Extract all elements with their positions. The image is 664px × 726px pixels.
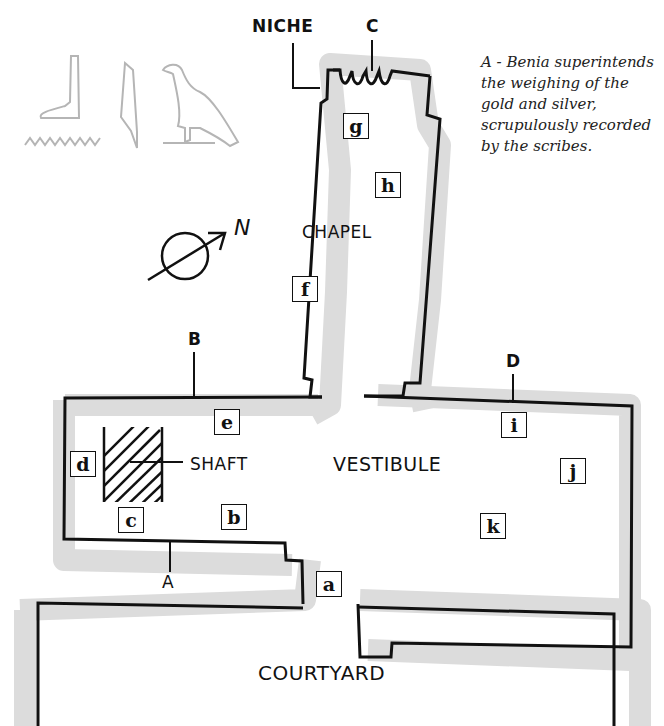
reed-hieroglyph bbox=[121, 63, 137, 148]
caption-line: by the scribes. bbox=[481, 136, 661, 157]
callout-c: C bbox=[366, 16, 378, 36]
marker-j: j bbox=[560, 458, 586, 484]
marker-a: a bbox=[316, 571, 342, 597]
zigzag-hieroglyph bbox=[25, 138, 100, 145]
niche-leader bbox=[293, 43, 320, 88]
caption-line: gold and silver, bbox=[481, 94, 661, 115]
north-arrow-icon bbox=[148, 233, 225, 280]
vestibule-label: VESTIBULE bbox=[333, 453, 441, 475]
caption-line: the weighing of the bbox=[481, 73, 661, 94]
chapel-label: CHAPEL bbox=[302, 222, 372, 242]
foot-hieroglyph bbox=[41, 56, 79, 118]
callout-b: B bbox=[188, 329, 201, 349]
caption-line: A - Benia superintends bbox=[481, 52, 661, 73]
caption: A - Benia superintends the weighing of t… bbox=[481, 52, 661, 157]
callout-a: A bbox=[162, 572, 174, 592]
marker-e: e bbox=[214, 409, 240, 435]
marker-k: k bbox=[480, 513, 506, 539]
vulture-hieroglyph bbox=[163, 65, 238, 146]
marker-c: c bbox=[118, 507, 144, 533]
marker-g: g bbox=[343, 113, 369, 139]
marker-i: i bbox=[501, 412, 527, 438]
shaft-hatch bbox=[90, 420, 205, 512]
callout-d: D bbox=[506, 351, 520, 371]
marker-d: d bbox=[70, 451, 96, 477]
wall-shadow bbox=[20, 64, 640, 726]
caption-line: scrupulously recorded bbox=[481, 115, 661, 136]
shaft-label: SHAFT bbox=[190, 454, 248, 474]
marker-b: b bbox=[221, 504, 247, 530]
hieroglyphs bbox=[25, 56, 238, 148]
courtyard-label: COURTYARD bbox=[258, 661, 385, 685]
marker-h: h bbox=[375, 172, 401, 198]
vestibule-walls bbox=[64, 396, 632, 657]
north-label: N bbox=[234, 215, 250, 240]
niche-label: NICHE bbox=[252, 16, 313, 36]
marker-f: f bbox=[292, 276, 318, 302]
